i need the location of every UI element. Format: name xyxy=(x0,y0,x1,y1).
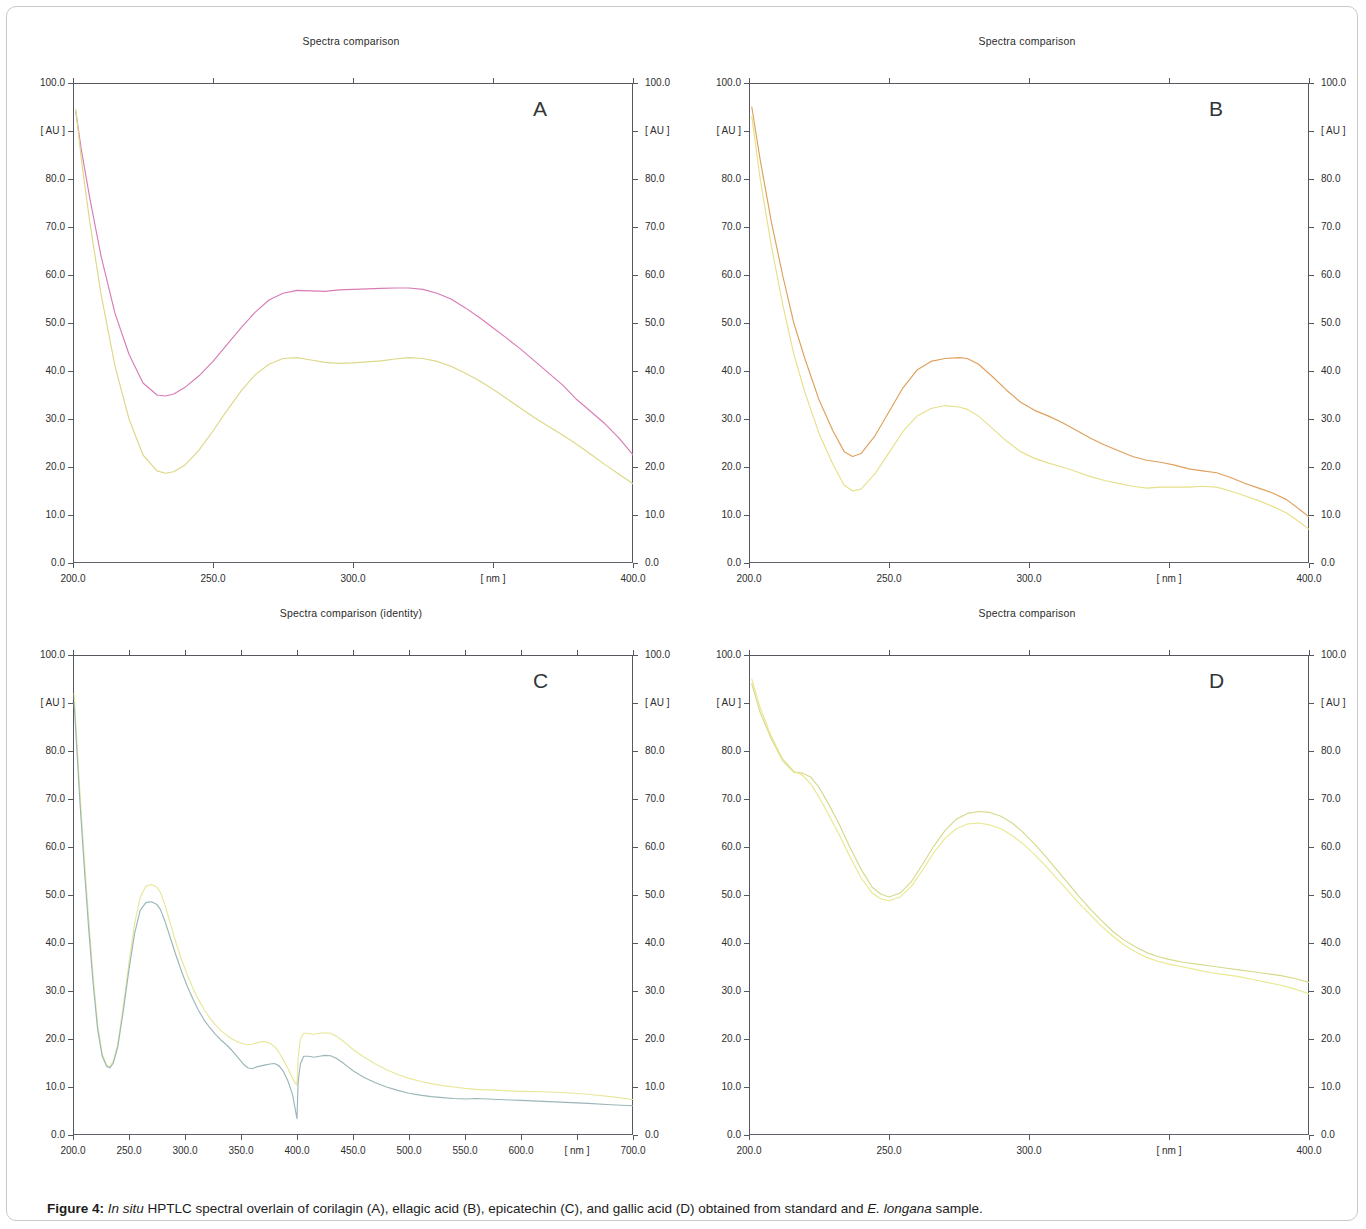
caption-species: E. longana xyxy=(867,1201,932,1216)
spectra-curves xyxy=(21,35,681,595)
spectrum-line xyxy=(74,693,633,1099)
spectrum-line xyxy=(752,107,1309,517)
spectrum-line xyxy=(752,684,1309,983)
figure-frame: Spectra comparison A100.0100.0[ AU ][ AU… xyxy=(6,6,1358,1221)
spectra-curves xyxy=(697,35,1357,595)
caption-tail: sample. xyxy=(932,1201,983,1216)
spectrum-line xyxy=(752,117,1309,530)
panel-d: Spectra comparison D100.0100.0[ AU ][ AU… xyxy=(697,607,1357,1177)
panel-b: Spectra comparison B100.0100.0[ AU ][ AU… xyxy=(697,35,1357,595)
panel-b-plot: B100.0100.0[ AU ][ AU ]80.080.070.070.06… xyxy=(697,35,1357,595)
spectra-curves xyxy=(697,607,1357,1177)
spectrum-line xyxy=(752,679,1309,994)
caption-in-situ: In situ xyxy=(108,1201,144,1216)
spectra-curves xyxy=(21,607,681,1177)
panel-c-plot: C100.0100.0[ AU ][ AU ]80.080.070.070.06… xyxy=(21,607,681,1177)
panel-a: Spectra comparison A100.0100.0[ AU ][ AU… xyxy=(21,35,681,595)
spectrum-line xyxy=(76,109,633,483)
spectrum-line xyxy=(76,112,633,455)
caption-body: HPTLC spectral overlain of corilagin (A)… xyxy=(144,1201,867,1216)
panel-a-plot: A100.0100.0[ AU ][ AU ]80.080.070.070.06… xyxy=(21,35,681,595)
panel-d-plot: D100.0100.0[ AU ][ AU ]80.080.070.070.06… xyxy=(697,607,1357,1177)
caption-label: Figure 4: xyxy=(47,1201,104,1216)
figure-caption: Figure 4: In situ HPTLC spectral overlai… xyxy=(47,1200,1347,1217)
panel-c: Spectra comparison (identity) C100.0100.… xyxy=(21,607,681,1177)
spectrum-line xyxy=(74,703,633,1119)
